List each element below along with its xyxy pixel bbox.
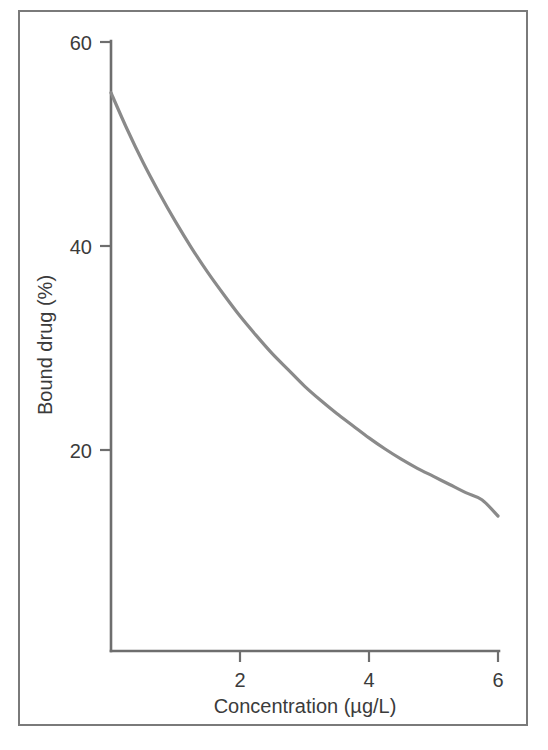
data-series-line (111, 93, 498, 516)
chart-plot-area: 60 40 20 2 4 6 Concentration (µg/L) Boun… (0, 0, 548, 750)
x-tick-label-6: 6 (492, 669, 503, 691)
x-tick-label-4: 4 (363, 669, 374, 691)
y-axis-title: Bound drug (%) (34, 275, 56, 415)
y-tick-label-20: 20 (70, 440, 92, 462)
y-tick-label-60: 60 (70, 32, 92, 54)
figure-root: 60 40 20 2 4 6 Concentration (µg/L) Boun… (0, 0, 548, 750)
x-tick-label-2: 2 (234, 669, 245, 691)
x-axis-title: Concentration (µg/L) (214, 695, 397, 717)
y-tick-label-40: 40 (70, 236, 92, 258)
